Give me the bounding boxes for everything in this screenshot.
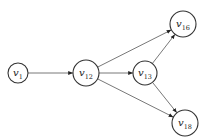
- node-v18: v18: [172, 110, 198, 136]
- edge-v12-v18: [98, 79, 174, 117]
- node-v13: v13: [133, 61, 157, 85]
- nodes: v1v12v13v16v18: [8, 11, 198, 136]
- node-v12: v12: [73, 60, 99, 86]
- graph-canvas: v1v12v13v16v18: [0, 0, 206, 139]
- node-v16: v16: [170, 11, 196, 37]
- edge-v13-v16: [152, 34, 175, 63]
- edge-v12-v16: [98, 30, 172, 67]
- node-v1: v1: [8, 63, 28, 83]
